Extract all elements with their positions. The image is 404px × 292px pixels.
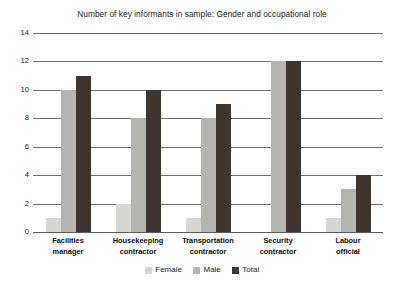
bar-male (341, 189, 356, 232)
bar-male (271, 61, 286, 232)
gridline (33, 232, 383, 233)
bar-group (256, 33, 301, 232)
bar-total (146, 90, 161, 232)
chart-title: Number of key informants in sample: Gend… (0, 9, 404, 19)
legend-item[interactable]: Total (232, 266, 259, 274)
bar-total (76, 76, 91, 232)
bar-female (186, 218, 201, 232)
y-axis-tick-label: 2 (3, 200, 29, 208)
bar-group (46, 33, 91, 232)
y-axis-tick-label: 8 (3, 114, 29, 122)
bar-male (201, 118, 216, 232)
y-axis-tick-label: 14 (3, 29, 29, 37)
y-axis-tick-label: 0 (3, 228, 29, 236)
bar-total (216, 104, 231, 232)
legend-swatch-female (145, 267, 152, 274)
legend-label: Total (242, 266, 259, 274)
bar-chart: Number of key informants in sample: Gend… (0, 0, 404, 292)
bar-female (46, 218, 61, 232)
y-axis: 14121086420 (0, 33, 29, 232)
y-axis-tick-label: 10 (3, 86, 29, 94)
bar-group (186, 33, 231, 232)
y-axis-tick-label: 4 (3, 171, 29, 179)
bar-total (356, 175, 371, 232)
legend-label: Male (203, 266, 220, 274)
chart-legend: FemaleMaleTotal (0, 266, 404, 274)
legend-swatch-male (193, 267, 200, 274)
bar-group (116, 33, 161, 232)
bar-group (326, 33, 371, 232)
legend-item[interactable]: Female (145, 266, 182, 274)
legend-swatch-total (232, 267, 239, 274)
bar-female (116, 204, 131, 232)
bar-male (131, 118, 146, 232)
y-axis-tick-label: 12 (3, 57, 29, 65)
bar-female (326, 218, 341, 232)
bar-total (286, 61, 301, 232)
x-axis-tick-label: Labourofficial (300, 236, 396, 257)
plot-area (33, 33, 383, 232)
bar-male (61, 90, 76, 232)
legend-item[interactable]: Male (193, 266, 221, 274)
legend-label: Female (155, 266, 182, 274)
x-axis-labels: FacilitiesmanagerHousekeepingcontractorT… (33, 236, 383, 262)
y-axis-tick-label: 6 (3, 143, 29, 151)
